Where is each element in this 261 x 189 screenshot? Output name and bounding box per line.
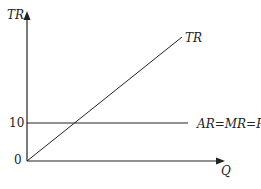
price-tick-label: 10 [9,116,24,130]
revenue-diagram: TR TR AR=MR=P Q 10 0 [0,0,261,189]
tr-line [27,37,182,161]
y-axis-arrow-icon [24,11,31,20]
ar-mr-p-label: AR=MR=P [196,117,261,131]
tr-curve-label: TR [185,31,202,45]
y-axis-label: TR [7,8,24,22]
origin-label: 0 [14,153,22,167]
x-axis-label: Q [221,164,231,178]
